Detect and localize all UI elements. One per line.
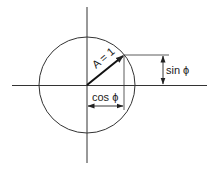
sin-label: sin ϕ bbox=[166, 64, 189, 76]
cos-label: cos ϕ bbox=[92, 91, 118, 103]
vector-label: A = 1 bbox=[90, 45, 117, 71]
diagram-svg: A = 1 sin ϕ cos ϕ bbox=[0, 0, 217, 171]
unit-circle-diagram: A = 1 sin ϕ cos ϕ bbox=[0, 0, 217, 171]
